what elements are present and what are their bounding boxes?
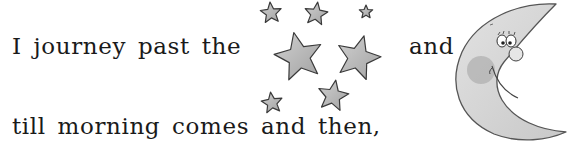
smiling-crescent-moon-icon — [456, 4, 566, 140]
star-icon — [359, 5, 372, 18]
star-icon — [274, 33, 321, 80]
stars-cluster-icon — [260, 2, 381, 113]
star-icon — [261, 92, 282, 113]
star-icon — [339, 36, 381, 80]
star-icon — [305, 2, 328, 25]
star-icon — [319, 80, 349, 110]
star-icon — [260, 2, 281, 22]
